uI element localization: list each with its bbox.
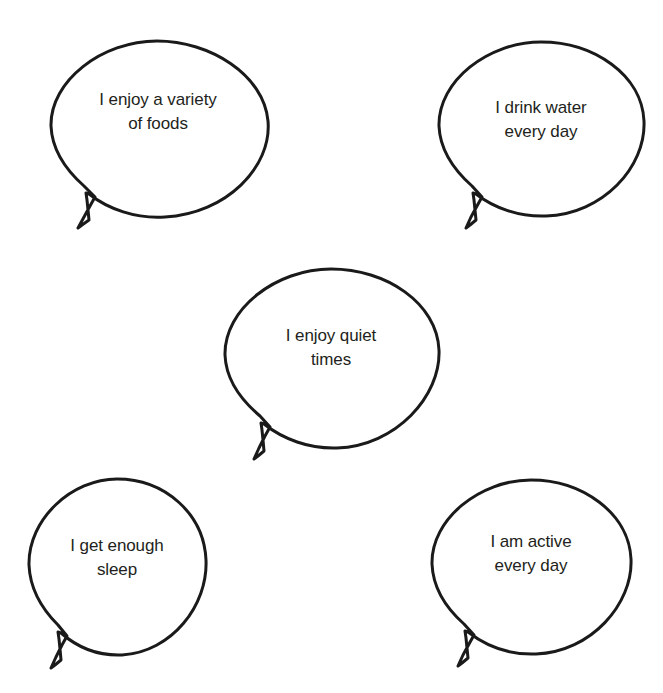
speech-bubble-canvas: I enjoy a variety of foods I drink water… [0, 0, 663, 693]
speech-bubble-active-every-day: I am active every day [424, 474, 638, 668]
speech-bubble-outline-icon [431, 36, 651, 230]
speech-bubble-outline-icon [40, 34, 276, 230]
speech-bubble-enough-sleep: I get enough sleep [22, 472, 212, 670]
speech-bubble-outline-icon [216, 262, 446, 462]
speech-bubble-outline-icon [424, 474, 638, 668]
speech-bubble-drink-water: I drink water every day [431, 36, 651, 230]
speech-bubble-variety-of-foods: I enjoy a variety of foods [40, 34, 276, 230]
speech-bubble-outline-icon [22, 472, 212, 670]
speech-bubble-quiet-times: I enjoy quiet times [216, 262, 446, 462]
